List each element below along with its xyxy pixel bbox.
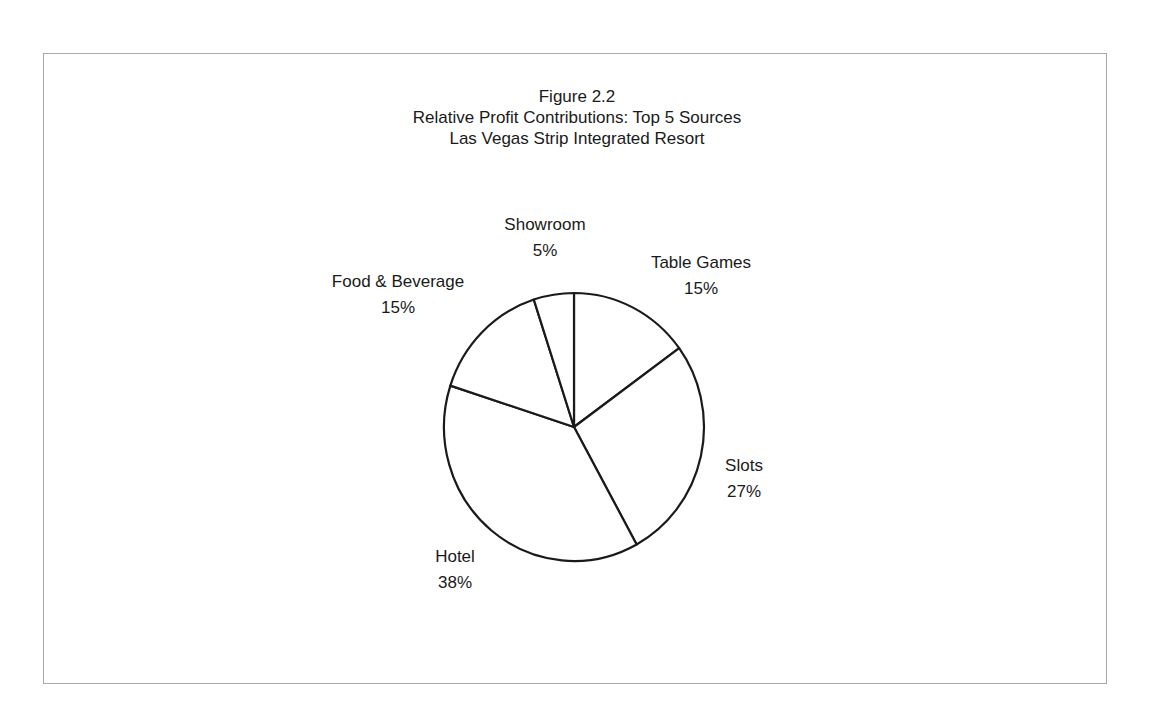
label-table-games: Table Games 15% (651, 250, 751, 302)
pie-chart (0, 0, 1154, 721)
slice-name: Showroom (504, 212, 585, 238)
label-showroom: Showroom 5% (504, 212, 585, 264)
slice-pct: 38% (435, 570, 475, 596)
label-slots: Slots 27% (725, 453, 763, 505)
label-food-beverage: Food & Beverage 15% (332, 269, 464, 321)
label-hotel: Hotel 38% (435, 544, 475, 596)
slice-pct: 15% (332, 295, 464, 321)
slice-name: Slots (725, 453, 763, 479)
slice-name: Hotel (435, 544, 475, 570)
slice-name: Food & Beverage (332, 269, 464, 295)
slice-name: Table Games (651, 250, 751, 276)
slice-pct: 5% (504, 238, 585, 264)
slice-pct: 27% (725, 479, 763, 505)
slice-pct: 15% (651, 276, 751, 302)
